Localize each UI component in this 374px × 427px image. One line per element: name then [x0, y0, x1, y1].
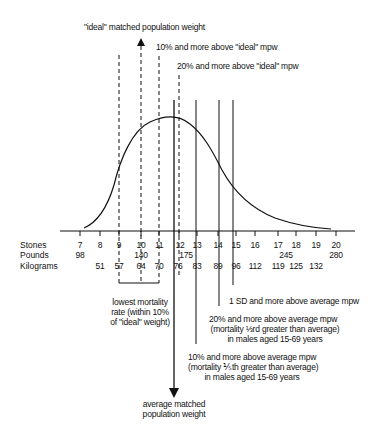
kilograms-tick: 57 — [115, 261, 124, 271]
stones-tick: 17 — [274, 240, 283, 250]
average-solid-lines — [196, 100, 233, 344]
stones-tick: 11 — [155, 240, 163, 250]
label-1sd-above-avg: 1 SD and more above average mpw — [229, 296, 359, 306]
kilograms-tick: 125 — [289, 261, 302, 271]
kilograms-tick: 89 — [214, 261, 223, 271]
arrow-down-icon — [169, 388, 179, 398]
stones-tick: 14 — [214, 240, 223, 250]
kilograms-tick: 83 — [193, 261, 202, 271]
label-average-mpw: average matched population weight — [140, 399, 208, 419]
row-label-kilograms: Kilograms — [20, 261, 58, 271]
label-20pct-above-avg: 20% and more above average mpw (mortalit… — [209, 314, 341, 344]
ideal-dashed-lines — [119, 46, 179, 283]
kilograms-tick: 51 — [96, 261, 105, 271]
pounds-tick: 98 — [76, 250, 85, 260]
kilograms-tick: 119 — [272, 261, 285, 271]
kilograms-tick: 112 — [249, 261, 262, 271]
stones-tick: 16 — [251, 240, 260, 250]
pounds-tick: 280 — [329, 250, 342, 260]
stones-tick: 19 — [312, 240, 321, 250]
label-10pct-above-ideal: 10% and more above "ideal" mpw — [156, 42, 277, 52]
kilograms-tick: 132 — [309, 261, 322, 271]
label-20pct-above-ideal: 20% and more above "ideal" mpw — [177, 61, 298, 71]
stones-tick: 10 — [137, 240, 146, 250]
row-label-stones: Stones — [20, 240, 46, 250]
pounds-tick: 175 — [179, 250, 192, 260]
kilograms-tick: 70 — [155, 261, 164, 271]
kilograms-tick: 64 — [137, 261, 146, 271]
label-lowest-mortality: lowest mortality rate (within 10% of "id… — [108, 297, 172, 327]
stones-tick: 12 — [176, 240, 185, 250]
stones-tick: 7 — [78, 240, 82, 250]
row-label-pounds: Pounds — [20, 250, 49, 260]
kilograms-tick: 76 — [174, 261, 183, 271]
stones-tick: 8 — [98, 240, 102, 250]
distribution-curve — [84, 117, 331, 229]
kilograms-tick: 96 — [232, 261, 241, 271]
stones-tick: 15 — [232, 240, 241, 250]
axis-ticks — [80, 231, 336, 236]
stones-tick: 20 — [332, 240, 341, 250]
stones-tick: 13 — [193, 240, 202, 250]
label-ideal-mpw: "ideal" matched population weight — [84, 22, 205, 32]
stones-tick: 9 — [117, 240, 121, 250]
pounds-tick: 140 — [134, 250, 147, 260]
pounds-tick: 245 — [279, 250, 292, 260]
label-10pct-above-avg: 10% and more above average mpw (mortalit… — [188, 352, 316, 382]
stones-tick: 18 — [292, 240, 301, 250]
arrow-up-icon — [137, 38, 145, 46]
